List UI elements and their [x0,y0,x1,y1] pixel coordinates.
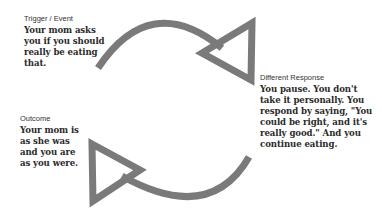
response-line: You pause. You don't [260,84,380,95]
response-line: continue eating. [260,139,380,150]
outcome-node: Outcome Your mom is as she was and you a… [20,114,90,169]
outcome-line: and you are [20,147,90,158]
trigger-line: really be eating [24,47,114,58]
trigger-line: you if you should [24,36,114,47]
response-text: You pause. You don't take it personally.… [260,84,380,150]
trigger-line: Your mom asks [24,25,114,36]
response-label: Different Response [260,73,380,82]
response-line: could be right, and it's [260,117,380,128]
outcome-line: Your mom is [20,125,90,136]
outcome-line: as she was [20,136,90,147]
curved-arrow-left-icon [92,144,249,201]
trigger-event-node: Trigger / Event Your mom asks you if you… [24,14,114,69]
trigger-label: Trigger / Event [24,14,114,23]
trigger-line: that. [24,58,114,69]
outcome-text: Your mom is as she was and you are as yo… [20,125,90,169]
different-response-node: Different Response You pause. You don't … [260,73,380,150]
response-line: take it personally. You [260,95,380,106]
trigger-text: Your mom asks you if you should really b… [24,25,114,69]
outcome-line: as you were. [20,158,90,169]
response-line: respond by saying, "You [260,106,380,117]
curved-arrow-right-icon [98,23,252,80]
cycle-diagram: Trigger / Event Your mom asks you if you… [0,0,382,214]
outcome-label: Outcome [20,114,90,123]
response-line: really good." And you [260,128,380,139]
